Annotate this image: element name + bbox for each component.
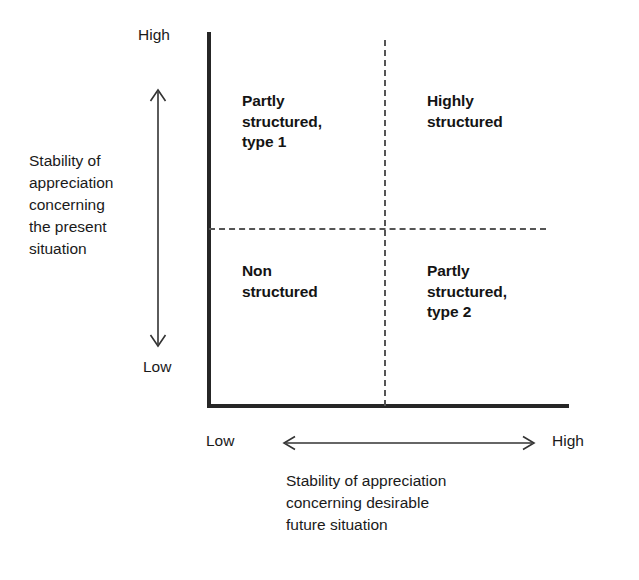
y-axis-double-arrow-icon bbox=[144, 84, 172, 352]
x-axis-high-label: High bbox=[552, 432, 584, 451]
x-axis-line bbox=[207, 404, 569, 408]
quadrant-top-right-label: Highly structured bbox=[427, 91, 503, 132]
quadrant-bottom-left-label: Non structured bbox=[242, 261, 318, 302]
y-axis-title: Stability of appreciation concerning the… bbox=[29, 150, 147, 260]
y-axis-high-label: High bbox=[138, 26, 170, 45]
x-axis-double-arrow-icon bbox=[278, 430, 540, 456]
x-axis-low-label: Low bbox=[206, 432, 234, 451]
horizontal-divider-dashed-line bbox=[209, 228, 546, 230]
quadrant-bottom-right-label: Partly structured, type 2 bbox=[427, 261, 507, 323]
quadrant-top-left-label: Partly structured, type 1 bbox=[242, 91, 322, 153]
x-axis-title: Stability of appreciation concerning des… bbox=[286, 470, 536, 536]
y-axis-low-label: Low bbox=[143, 358, 171, 377]
vertical-divider-dashed-line bbox=[384, 40, 386, 406]
y-axis-line bbox=[207, 32, 211, 408]
quadrant-diagram: High Low Stability of appreciation conce… bbox=[0, 0, 639, 580]
